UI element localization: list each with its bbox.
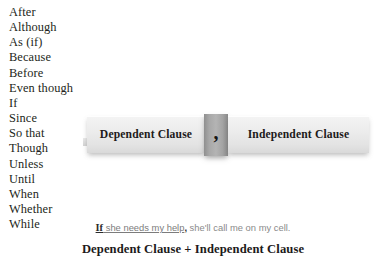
dependent-clause-box: Dependent Clause (87, 116, 205, 153)
list-item: Whether (9, 202, 105, 217)
clause-diagram-figure: After Although As (if) Because Before Ev… (0, 0, 386, 266)
clause-bar: Dependent Clause , Independent Clause (87, 116, 369, 153)
example-conjunction: If (96, 222, 104, 233)
example-independent-clause: she'll call me on my cell. (187, 222, 290, 233)
formula-caption: Dependent Clause + Independent Clause (0, 242, 386, 257)
list-item: When (9, 187, 105, 202)
list-item: Before (9, 66, 105, 81)
comma-separator-tab: , (204, 114, 228, 156)
list-item: After (9, 5, 105, 20)
list-item: Even though (9, 81, 105, 96)
independent-clause-label: Independent Clause (248, 128, 350, 141)
dependent-clause-label: Dependent Clause (100, 128, 192, 141)
list-item: Until (9, 172, 105, 187)
list-item: Although (9, 20, 105, 35)
independent-clause-box: Independent Clause (228, 116, 369, 153)
list-item: Unless (9, 157, 105, 172)
example-dependent-clause: she needs my help (103, 222, 184, 233)
list-item: If (9, 96, 105, 111)
example-sentence: If she needs my help, she'll call me on … (0, 222, 386, 233)
list-item: Because (9, 50, 105, 65)
list-item: As (if) (9, 35, 105, 50)
